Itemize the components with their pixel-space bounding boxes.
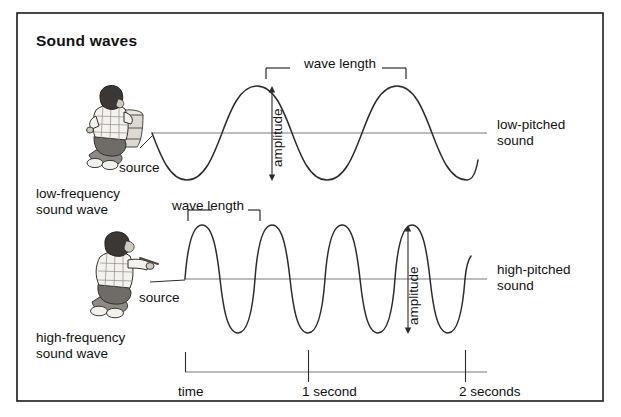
time-axis-tick-1-label: 1 second [302, 384, 357, 399]
high-frequency-caption-line1: high-frequency [36, 330, 125, 345]
low-pitched-sound-label-line2: sound [497, 133, 534, 148]
low-source-label: source [119, 160, 160, 175]
page-title: Sound waves [36, 32, 137, 49]
low-frequency-caption-line1: low-frequency [36, 186, 120, 201]
sound-waves-figure: Sound waves wave length amplitude source… [0, 0, 621, 417]
high-frequency-caption-line2: sound wave [36, 346, 108, 361]
high-wavelength-label: wave length [172, 198, 244, 213]
high-amplitude-label: amplitude [406, 266, 421, 325]
time-axis-tick-2-label: 2 seconds [459, 384, 521, 399]
low-amplitude-label: amplitude [270, 108, 285, 167]
high-source-label: source [139, 290, 180, 305]
high-pitched-sound-label-line2: sound [497, 278, 534, 293]
time-axis-label: time [178, 384, 204, 399]
low-frequency-caption-line2: sound wave [36, 202, 108, 217]
high-pitched-sound-label-line1: high-pitched [497, 262, 571, 277]
low-pitched-sound-label-line1: low-pitched [497, 117, 565, 132]
low-wavelength-label: wave length [304, 56, 376, 71]
